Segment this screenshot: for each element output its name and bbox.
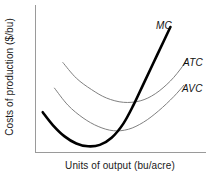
atc-curve [63,58,187,102]
mc-curve [43,27,171,146]
x-axis-title: Units of output (bu/acre) [30,160,210,171]
avc-curve [54,85,183,131]
y-axis-title: Costs of production ($/bu) [4,0,18,157]
atc-curve-label: ATC [183,57,203,68]
avc-curve-label: AVC [182,83,203,94]
curve-group [43,27,187,146]
cost-curves-figure: Costs of production ($/bu) Units of outp… [0,0,220,181]
mc-curve-label: MC [156,20,172,31]
